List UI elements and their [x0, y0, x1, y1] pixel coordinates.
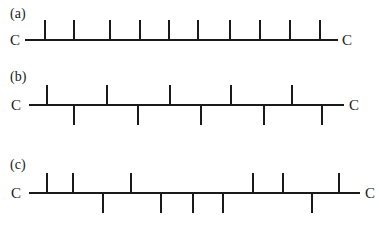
- chain-end-right: C: [342, 32, 352, 48]
- chain-end-left: C: [11, 185, 21, 201]
- row-a: (a) C C: [10, 6, 352, 48]
- chain-end-left: C: [10, 32, 20, 48]
- substituent-ticks: [45, 20, 320, 40]
- row-label: (b): [10, 69, 27, 85]
- chain-end-right: C: [365, 185, 375, 201]
- row-b: (b) C C: [10, 69, 359, 125]
- row-label: (c): [10, 157, 26, 173]
- chain-end-right: C: [349, 97, 359, 113]
- row-c: (c) C C: [10, 157, 375, 213]
- tacticity-diagram: (a) C C (b) C C (c) C C: [0, 0, 379, 229]
- chain-end-left: C: [11, 97, 21, 113]
- row-label: (a): [10, 6, 26, 22]
